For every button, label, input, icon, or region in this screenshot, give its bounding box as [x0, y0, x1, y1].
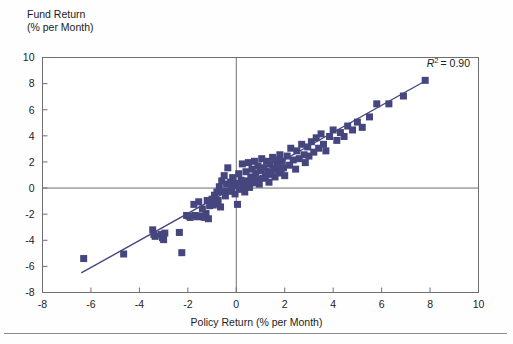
svg-text:6: 6 [379, 298, 385, 310]
data-point [276, 151, 283, 158]
scatter-plot-canvas: -8-6-4-20246810-8-6-4-20246810 R2= 0.90 [0, 0, 513, 344]
data-point [152, 233, 159, 240]
data-point [320, 141, 327, 148]
data-point [195, 198, 202, 205]
svg-text:-4: -4 [135, 298, 144, 310]
data-point [298, 141, 305, 148]
data-point [245, 159, 252, 166]
svg-text:-8: -8 [38, 298, 47, 310]
data-point [176, 229, 183, 236]
data-point [292, 166, 299, 173]
svg-text:2: 2 [29, 156, 35, 168]
horizontal-divider-rule [4, 333, 507, 334]
svg-text:-2: -2 [25, 208, 34, 220]
svg-text:8: 8 [29, 77, 35, 89]
data-point [80, 255, 87, 262]
svg-text:2: 2 [282, 298, 288, 310]
data-point [239, 160, 246, 167]
data-point [341, 133, 348, 140]
svg-text:-6: -6 [86, 298, 95, 310]
data-point [265, 179, 272, 186]
svg-text:-4: -4 [25, 234, 34, 246]
figure-scatter-fund-vs-policy-return: Fund Return (% per Month) -8-6-4-2024681… [0, 0, 513, 344]
data-point [333, 137, 340, 144]
svg-text:0: 0 [233, 298, 239, 310]
svg-text:R2= 0.90: R2= 0.90 [427, 56, 470, 70]
data-point [224, 164, 231, 171]
data-point [161, 230, 168, 237]
svg-text:-2: -2 [183, 298, 192, 310]
data-point [120, 250, 127, 257]
data-point [302, 159, 309, 166]
svg-text:4: 4 [330, 298, 336, 310]
data-point [287, 145, 294, 152]
svg-text:8: 8 [427, 298, 433, 310]
svg-text:-6: -6 [25, 260, 34, 272]
svg-text:10: 10 [473, 298, 485, 310]
svg-text:10: 10 [23, 51, 35, 63]
data-point [322, 147, 329, 154]
data-point [280, 164, 287, 171]
data-point [366, 113, 373, 120]
svg-text:-8: -8 [25, 286, 34, 298]
r-squared-annotation: R2= 0.90 [427, 56, 470, 70]
data-point [221, 172, 228, 179]
data-point [281, 172, 288, 179]
svg-text:4: 4 [29, 130, 35, 142]
data-point [235, 170, 242, 177]
data-point [178, 249, 185, 256]
svg-text:6: 6 [29, 104, 35, 116]
data-point [318, 130, 325, 137]
data-point [217, 203, 224, 210]
data-point [205, 215, 212, 222]
x-axis-label: Policy Return (% per Month) [0, 316, 513, 328]
data-point [290, 156, 297, 163]
data-point [359, 124, 366, 131]
data-point [234, 201, 241, 208]
svg-text:0: 0 [29, 182, 35, 194]
data-point [160, 236, 167, 243]
data-point [349, 126, 356, 133]
